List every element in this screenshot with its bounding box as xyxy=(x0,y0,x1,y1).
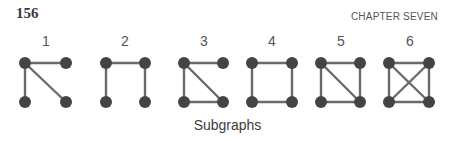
edge-TL-BR xyxy=(321,63,360,102)
node-BR xyxy=(217,96,229,108)
node-TL xyxy=(315,57,327,69)
edge-TL-BR xyxy=(25,63,66,102)
node-BL xyxy=(383,96,395,108)
node-TR xyxy=(286,57,298,69)
subgraph-label: 4 xyxy=(268,33,276,49)
subgraph-6: 6 xyxy=(383,33,435,108)
node-TR xyxy=(139,57,151,69)
subgraph-2: 2 xyxy=(100,33,151,108)
node-BR xyxy=(139,96,151,108)
node-TL xyxy=(246,57,258,69)
node-BR xyxy=(60,96,72,108)
figure-caption: Subgraphs xyxy=(0,117,455,133)
subgraph-4: 4 xyxy=(246,33,298,108)
subgraph-label: 5 xyxy=(337,33,345,49)
node-TR xyxy=(217,57,229,69)
node-BR xyxy=(354,96,366,108)
subgraph-label: 3 xyxy=(200,33,208,49)
node-TR xyxy=(354,57,366,69)
subgraph-3: 3 xyxy=(178,33,229,108)
node-BR xyxy=(423,96,435,108)
node-TL xyxy=(100,57,112,69)
node-TR xyxy=(60,57,72,69)
subgraph-5: 5 xyxy=(315,33,366,108)
node-BL xyxy=(19,96,31,108)
node-TL xyxy=(19,57,31,69)
subgraph-label: 2 xyxy=(121,33,129,49)
subgraph-label: 1 xyxy=(42,33,50,49)
node-TR xyxy=(423,57,435,69)
subgraph-label: 6 xyxy=(406,33,414,49)
node-BL xyxy=(100,96,112,108)
subgraph-1: 1 xyxy=(19,33,72,108)
node-BL xyxy=(315,96,327,108)
node-BL xyxy=(246,96,258,108)
node-BR xyxy=(286,96,298,108)
edge-TL-BR xyxy=(184,63,223,102)
node-BL xyxy=(178,96,190,108)
node-TL xyxy=(383,57,395,69)
node-TL xyxy=(178,57,190,69)
